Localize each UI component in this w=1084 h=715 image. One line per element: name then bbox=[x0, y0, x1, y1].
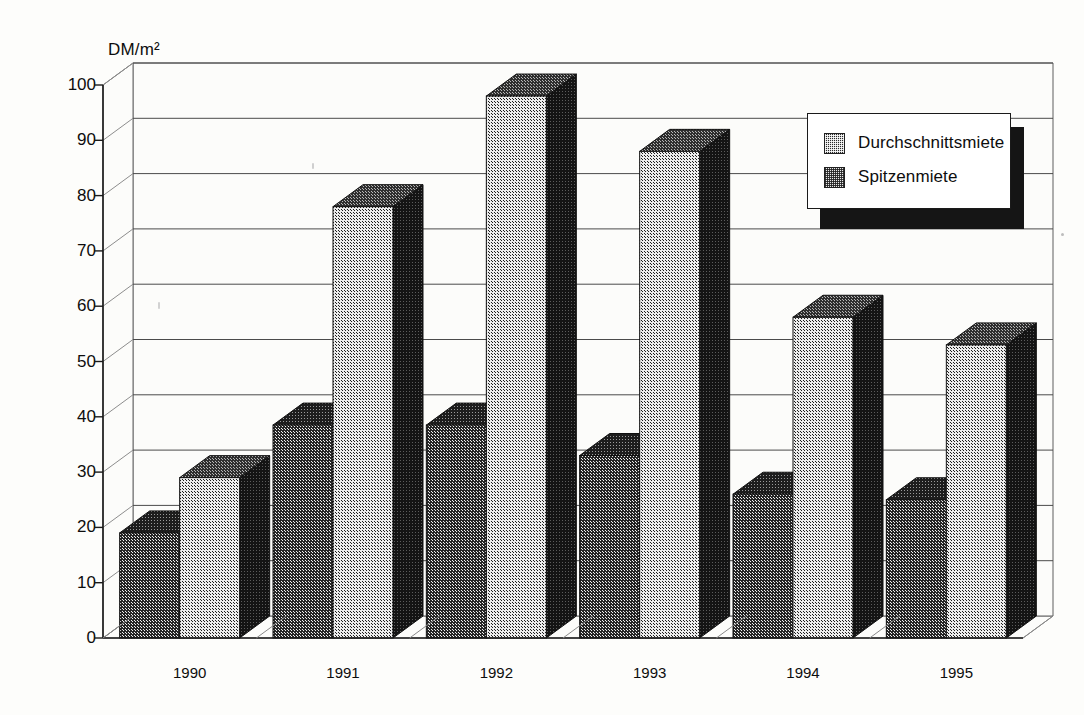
legend-label: Durchschnittsmiete bbox=[858, 133, 1004, 153]
x-axis-tick-label: 1992 bbox=[480, 664, 513, 681]
bar-spitzenmiete[interactable] bbox=[793, 295, 883, 638]
legend-swatch-icon bbox=[824, 133, 845, 154]
bar-spitzenmiete[interactable] bbox=[333, 185, 423, 638]
bar-spitzenmiete[interactable] bbox=[640, 129, 730, 638]
bar-side-face bbox=[700, 129, 730, 638]
bar-front-face bbox=[120, 533, 180, 638]
bar-front-face bbox=[733, 494, 793, 638]
legend-item[interactable]: Spitzenmiete bbox=[808, 160, 1010, 194]
bar-side-face bbox=[853, 295, 883, 638]
x-axis-tick-label: 1995 bbox=[940, 664, 973, 681]
bar-front-face bbox=[180, 478, 240, 638]
bar-side-face bbox=[546, 74, 576, 638]
legend-swatch-icon bbox=[824, 167, 845, 188]
bar-side-face bbox=[240, 456, 270, 638]
x-axis-tick-label: 1990 bbox=[173, 664, 206, 681]
bar-front-face bbox=[886, 500, 946, 638]
bar-spitzenmiete[interactable] bbox=[946, 323, 1036, 638]
bar-front-face bbox=[426, 425, 486, 638]
bar-front-face bbox=[486, 96, 546, 638]
paper-speck bbox=[312, 163, 314, 169]
chart-container: DM/m² 0102030405060708090100 bbox=[0, 0, 1084, 715]
bar-front-face bbox=[333, 207, 393, 638]
bar-spitzenmiete[interactable] bbox=[486, 74, 576, 638]
chart-legend[interactable]: DurchschnittsmieteSpitzenmiete bbox=[807, 113, 1011, 209]
paper-speck bbox=[158, 302, 160, 309]
x-axis-tick-label: 1994 bbox=[786, 664, 819, 681]
legend-label: Spitzenmiete bbox=[858, 167, 957, 187]
plot-area bbox=[0, 0, 1084, 715]
bar-front-face bbox=[273, 425, 333, 638]
x-axis-tick-label: 1993 bbox=[633, 664, 666, 681]
bar-spitzenmiete[interactable] bbox=[180, 456, 270, 638]
bar-front-face bbox=[640, 151, 700, 638]
legend-item[interactable]: Durchschnittsmiete bbox=[808, 126, 1010, 160]
bar-front-face bbox=[946, 345, 1006, 638]
bar-side-face bbox=[393, 185, 423, 638]
x-axis-tick-label: 1991 bbox=[326, 664, 359, 681]
paper-speck bbox=[1061, 233, 1064, 236]
bar-front-face bbox=[793, 317, 853, 638]
bar-front-face bbox=[580, 456, 640, 638]
bar-side-face bbox=[1006, 323, 1036, 638]
